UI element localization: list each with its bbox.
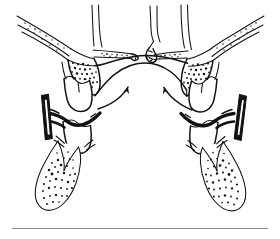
maxillary-expansion-illustration	[0, 0, 280, 239]
figure-root	[0, 0, 280, 239]
